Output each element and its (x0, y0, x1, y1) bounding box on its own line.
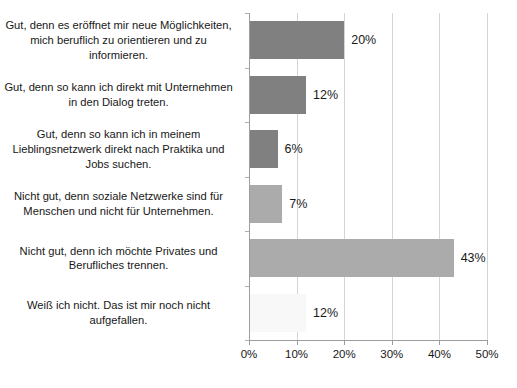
bar-value-label: 12% (313, 306, 338, 320)
bar (249, 130, 278, 168)
category-label-text: Nicht gut, denn ich möchte Privates und … (0, 244, 237, 273)
bar-value-label: 7% (289, 197, 307, 211)
category-label: Gut, denn es eröffnet mir neue Möglichke… (0, 13, 243, 68)
category-label: Gut, denn so kann ich direkt mit Unterne… (0, 68, 243, 123)
x-axis-tick-label: 0% (241, 347, 258, 361)
x-axis-line (249, 340, 488, 341)
x-axis-tick-label: 50% (475, 347, 498, 361)
x-axis-tick (487, 341, 488, 345)
category-label-text: Weiß ich nicht. Das ist mir noch nicht a… (0, 298, 237, 327)
category-label: Weiß ich nicht. Das ist mir noch nicht a… (0, 286, 243, 341)
category-label-text: Gut, denn so kann ich direkt mit Unterne… (0, 80, 237, 109)
x-axis-tick-label: 40% (428, 347, 451, 361)
bar-row: 12% (249, 294, 487, 332)
y-axis-tick (245, 286, 249, 287)
x-axis-tick (392, 341, 393, 345)
category-label-text: Gut, denn es eröffnet mir neue Möglichke… (0, 18, 237, 62)
bar-row: 20% (249, 21, 487, 59)
gridline (487, 13, 488, 340)
plot-area: 20%12%6%7%43%12% (249, 13, 487, 340)
y-axis-tick (245, 231, 249, 232)
y-axis-tick (245, 13, 249, 14)
bar-row: 6% (249, 130, 487, 168)
y-axis-tick (245, 68, 249, 69)
category-label-text: Nicht gut, denn soziale Netzwerke sind f… (0, 189, 237, 218)
bar-row: 7% (249, 185, 487, 223)
category-label: Nicht gut, denn ich möchte Privates und … (0, 231, 243, 286)
bar (249, 76, 306, 114)
category-label-text: Gut, denn so kann ich in meinem Liebling… (0, 127, 237, 171)
bar-value-label: 12% (313, 88, 338, 102)
x-axis-tick (249, 341, 250, 345)
bar-row: 43% (249, 239, 487, 277)
x-axis-tick-label: 30% (380, 347, 403, 361)
bar-chart: Gut, denn es eröffnet mir neue Möglichke… (0, 0, 517, 388)
bar-series: 20%12%6%7%43%12% (249, 13, 487, 340)
x-axis-tick (439, 341, 440, 345)
bar (249, 21, 344, 59)
bar-value-label: 20% (351, 33, 376, 47)
y-axis-tick (245, 177, 249, 178)
bar (249, 239, 454, 277)
x-axis-tick (344, 341, 345, 345)
bar-value-label: 6% (285, 142, 303, 156)
bar-value-label: 43% (461, 251, 486, 265)
category-label: Gut, denn so kann ich in meinem Liebling… (0, 122, 243, 177)
bar (249, 185, 282, 223)
y-axis-tick (245, 122, 249, 123)
bar-row: 12% (249, 76, 487, 114)
category-label-column: Gut, denn es eröffnet mir neue Möglichke… (0, 13, 243, 340)
x-axis-tick (297, 341, 298, 345)
bar (249, 294, 306, 332)
x-axis-tick-label: 20% (333, 347, 356, 361)
x-axis-tick-label: 10% (285, 347, 308, 361)
y-axis-line (249, 13, 250, 341)
category-label: Nicht gut, denn soziale Netzwerke sind f… (0, 177, 243, 232)
